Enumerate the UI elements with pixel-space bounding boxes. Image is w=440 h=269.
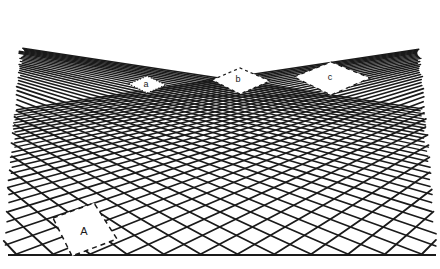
cell-label-A: A	[80, 226, 87, 237]
cell-label-a: a	[143, 80, 148, 89]
perspective-grid-canvas	[0, 0, 440, 269]
cell-label-c: c	[328, 73, 333, 82]
perspective-grid-figure: a b c A	[0, 0, 440, 269]
cell-label-b: b	[235, 75, 240, 84]
